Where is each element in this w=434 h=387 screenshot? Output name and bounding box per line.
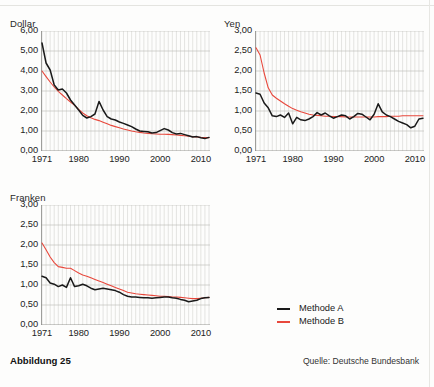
x-tick-label: 1990 — [109, 155, 129, 164]
legend-item-methode-b: Methode B — [277, 315, 397, 328]
x-tick-label: 1980 — [69, 155, 89, 164]
x-tick-label: 2010 — [191, 155, 211, 164]
plot-wrap-franken: 0,000,501,001,502,002,503,00 19711980199… — [10, 205, 210, 342]
y-tick-label: 2,00 — [20, 240, 38, 249]
plot-area-dollar — [41, 31, 210, 151]
y-tick-label: 6,00 — [20, 26, 38, 35]
x-tick-label: 1971 — [32, 155, 52, 164]
y-tick-label: 3,00 — [20, 86, 38, 95]
y-tick-label: 5,00 — [20, 46, 38, 55]
x-axis-labels-dollar: 19711980199020002010 — [10, 155, 210, 167]
x-tick-label: 1980 — [283, 155, 303, 164]
x-axis-labels-franken: 19711980199020002010 — [10, 329, 210, 341]
plot-wrap-dollar: 0,001,002,003,004,005,006,00 19711980199… — [10, 31, 210, 168]
chart-svg-dollar — [41, 31, 210, 151]
chart-svg-franken — [41, 205, 210, 325]
x-tick-label: 1990 — [109, 329, 129, 338]
y-tick-label: 1,00 — [234, 106, 252, 115]
y-tick-label: 1,00 — [20, 126, 38, 135]
y-tick-label: 2,50 — [20, 220, 38, 229]
y-tick-label: 2,00 — [234, 66, 252, 75]
x-tick-label: 1971 — [32, 329, 52, 338]
x-tick-label: 2000 — [150, 155, 170, 164]
x-tick-label: 1971 — [246, 155, 266, 164]
plot-area-yen — [255, 31, 424, 151]
x-tick-label: 1980 — [69, 329, 89, 338]
x-axis-labels-yen: 19711980199020002010 — [224, 155, 424, 167]
x-tick-label: 2000 — [364, 155, 384, 164]
legend-swatch-methode-b — [277, 321, 290, 323]
y-tick-label: 1,00 — [20, 280, 38, 289]
x-tick-label: 2000 — [150, 329, 170, 338]
figure-page: Dollar 0,001,002,003,004,005,006,00 1971… — [0, 0, 434, 387]
chart-legend: Methode A Methode B — [277, 302, 397, 328]
plot-wrap-yen: 0,000,501,001,502,002,503,00 19711980199… — [224, 31, 424, 168]
y-tick-label: 0,50 — [234, 126, 252, 135]
y-tick-label: 2,00 — [20, 106, 38, 115]
legend-swatch-methode-a — [277, 308, 290, 310]
y-tick-label: 1,50 — [234, 86, 252, 95]
y-tick-label: 3,00 — [20, 200, 38, 209]
legend-label-methode-b: Methode B — [299, 315, 344, 328]
y-tick-label: 4,00 — [20, 66, 38, 75]
page-top-rule — [0, 5, 434, 6]
x-tick-label: 2010 — [405, 155, 425, 164]
legend-item-methode-a: Methode A — [277, 302, 397, 315]
chart-svg-yen — [255, 31, 424, 151]
y-tick-label: 2,50 — [234, 46, 252, 55]
chart-panel-yen: Yen 0,000,501,001,502,002,503,00 1971198… — [224, 18, 424, 168]
figure-caption: Abbildung 25 — [10, 355, 71, 366]
chart-panel-dollar: Dollar 0,001,002,003,004,005,006,00 1971… — [10, 18, 210, 168]
plot-area-franken — [41, 205, 210, 325]
y-tick-label: 1,50 — [20, 260, 38, 269]
legend-label-methode-a: Methode A — [299, 302, 343, 315]
page-right-rule — [429, 0, 430, 387]
y-tick-label: 3,00 — [234, 26, 252, 35]
chart-panel-franken: Franken 0,000,501,001,502,002,503,00 197… — [10, 192, 210, 342]
y-tick-label: 0,50 — [20, 300, 38, 309]
x-tick-label: 2010 — [191, 329, 211, 338]
figure-source: Quelle: Deutsche Bundesbank — [303, 356, 419, 366]
x-tick-label: 1990 — [323, 155, 343, 164]
